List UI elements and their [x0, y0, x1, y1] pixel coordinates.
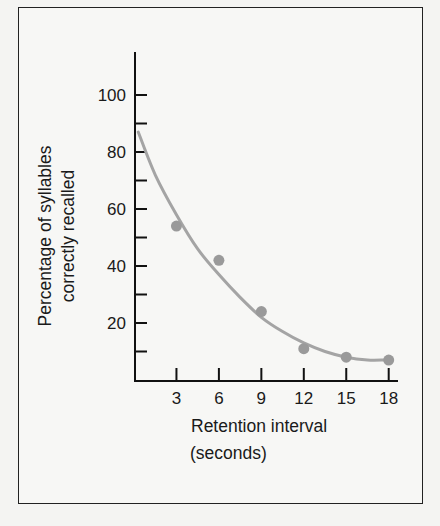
fitted-curve	[138, 132, 384, 360]
data-point	[213, 255, 224, 266]
y-axis-title-line-1: Percentage of syllables	[35, 145, 55, 326]
y-axis: 20406080100	[98, 52, 147, 381]
data-point	[256, 306, 267, 317]
x-tick-label: 12	[294, 389, 313, 408]
x-tick-label: 6	[214, 389, 223, 408]
y-tick-label: 40	[107, 257, 126, 276]
x-axis-title-line-1: Retention interval	[191, 416, 327, 436]
forgetting-curve-chart: 20406080100 369121518 Percentage of syll…	[0, 0, 440, 526]
data-points	[171, 221, 394, 366]
fitted-curve-path	[138, 132, 384, 360]
data-point	[298, 343, 309, 354]
x-tick-label: 15	[337, 389, 356, 408]
data-point	[171, 221, 182, 232]
y-tick-label: 80	[107, 143, 126, 162]
y-tick-label: 60	[107, 200, 126, 219]
data-point	[341, 352, 352, 363]
y-axis-title-line-2: correctly recalled	[58, 170, 78, 302]
x-tick-label: 18	[379, 389, 398, 408]
y-tick-label: 100	[98, 86, 126, 105]
x-tick-label: 9	[257, 389, 266, 408]
x-axis: 369121518	[134, 368, 398, 408]
y-tick-label: 20	[107, 314, 126, 333]
x-axis-title-line-2: (seconds)	[190, 443, 267, 463]
x-tick-label: 3	[172, 389, 181, 408]
axis-titles: Percentage of syllablescorrectly recalle…	[35, 145, 327, 463]
data-point	[383, 355, 394, 366]
